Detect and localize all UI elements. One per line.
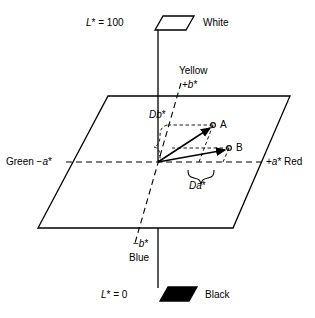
delta-a-label: Da*: [189, 180, 206, 191]
delta-b-label: Db*: [149, 109, 166, 120]
cielab-diagram: L* = 100 L* = 100 White Yellow +b* +b* G…: [0, 0, 315, 318]
b-axis-negative-label: −b*: [133, 238, 148, 249]
point-b-label: B: [236, 142, 243, 153]
yellow-label: Yellow: [179, 65, 208, 76]
black-label: Black: [205, 289, 229, 300]
a-axis-negative-label: Green −a*: [6, 156, 52, 167]
white-swatch-icon: [155, 16, 194, 30]
delta-b-bracket: [154, 125, 167, 162]
point-a-label: A: [220, 119, 227, 130]
black-swatch-icon: [160, 287, 197, 301]
lightness-top-label: L* = 100: [86, 17, 124, 28]
b-axis-positive-label: +b*: [182, 79, 197, 90]
lightness-bottom-label: L* = 0: [101, 289, 127, 300]
a-axis-positive-label: +a* Red: [266, 156, 302, 167]
blue-label: Blue: [129, 252, 149, 263]
white-label: White: [203, 17, 229, 28]
